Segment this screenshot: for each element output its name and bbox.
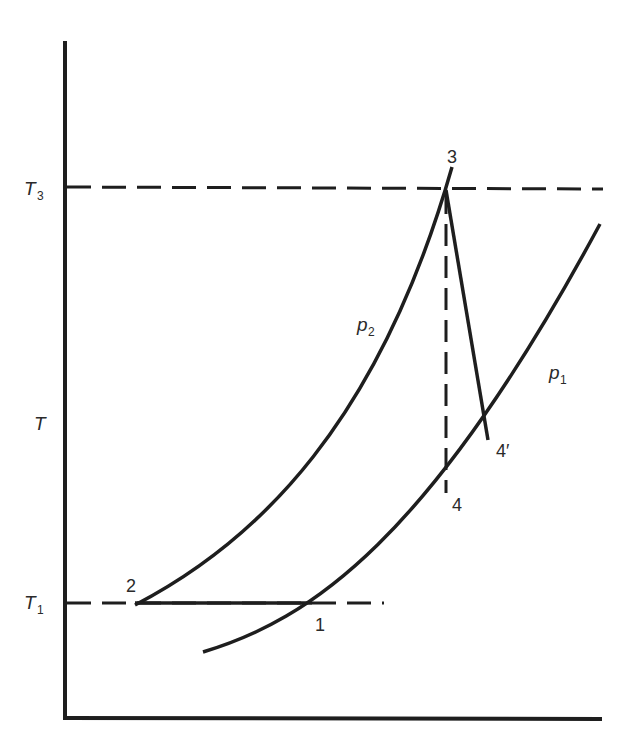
state-point-4prime-label: 4′ — [496, 441, 510, 461]
x-axis — [65, 718, 600, 719]
reference-lines — [67, 187, 603, 603]
svg-text:T: T — [24, 178, 37, 199]
ts-diagram: T T 3 T 1 p 2 p 1 1 2 3 4 4′ — [0, 0, 635, 752]
isobar-p1-curve — [203, 224, 600, 652]
axes — [65, 43, 600, 719]
isobar-p2-curve — [135, 167, 452, 605]
t3-label: T 3 — [24, 178, 44, 203]
p1-label: p 1 — [548, 362, 567, 387]
p2-label: p 2 — [356, 314, 375, 339]
svg-text:3: 3 — [37, 189, 44, 203]
state-point-3-label: 3 — [447, 147, 457, 167]
state-point-1-label: 1 — [315, 615, 325, 635]
t3-dashed-line — [67, 187, 603, 189]
actual-expansion-3-4prime — [446, 190, 488, 440]
svg-text:p: p — [356, 314, 368, 335]
state-point-4-label: 4 — [452, 495, 462, 515]
svg-text:2: 2 — [368, 325, 375, 339]
t1-label: T 1 — [24, 592, 44, 617]
svg-text:p: p — [548, 362, 560, 383]
svg-text:1: 1 — [37, 603, 44, 617]
state-point-2-label: 2 — [126, 576, 136, 596]
y-axis-label: T — [34, 413, 47, 434]
svg-text:T: T — [24, 592, 37, 613]
svg-text:1: 1 — [560, 373, 567, 387]
